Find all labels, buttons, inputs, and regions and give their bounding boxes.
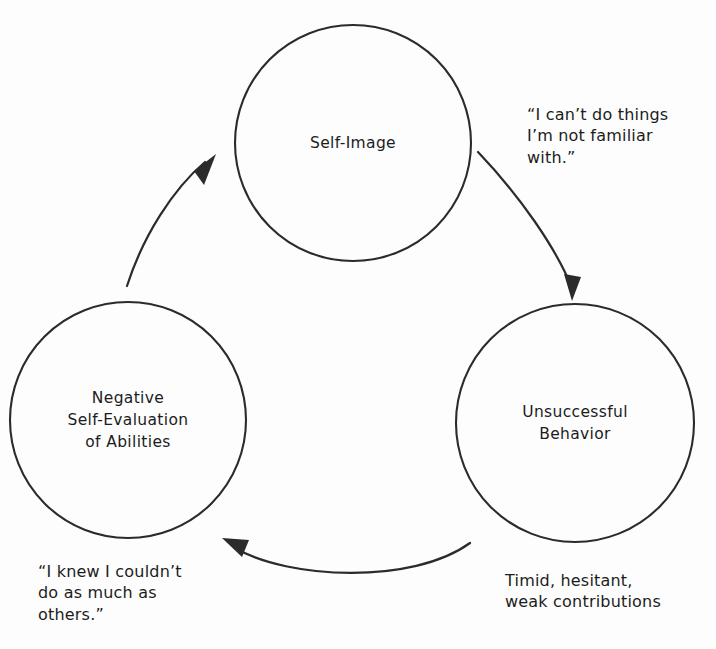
arrow-evaluation-to-self-image <box>127 162 205 286</box>
diagram-canvas <box>0 0 716 649</box>
caption-behavior-description: Timid, hesitant, weak contributions <box>505 570 661 613</box>
arrow-behavior-to-evaluation <box>235 543 470 573</box>
arrow-head-evaluation-to-self-image <box>194 154 216 185</box>
arrow-self-image-to-behavior <box>478 152 572 288</box>
arrow-head-self-image-to-behavior <box>564 274 581 301</box>
cycle-diagram: Self-Image Unsuccessful Behavior Negativ… <box>0 0 716 649</box>
node-circle-unsuccessful-behavior <box>456 304 694 542</box>
node-circle-negative-self-evaluation <box>10 302 246 538</box>
caption-self-image-quote: “I can’t do things I’m not familiar with… <box>527 104 668 168</box>
caption-self-evaluation-quote: “I knew I couldn’t do as much as others.… <box>38 561 182 625</box>
node-circle-self-image <box>235 25 471 261</box>
